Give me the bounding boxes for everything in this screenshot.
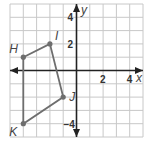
vertex-i-point [47, 41, 52, 46]
y-axis-bottom-arrow [73, 129, 80, 137]
axes [10, 4, 143, 137]
vertex-j-label: J [68, 90, 76, 104]
vertex-h-label: H [9, 42, 18, 56]
vertex-k-point [21, 121, 26, 126]
x-axis-label: x [135, 71, 143, 85]
y-tick-label: 2 [68, 39, 74, 50]
coordinate-plane: 2442−4 x y HIJK [0, 0, 148, 142]
vertex-h-point [21, 55, 26, 60]
x-tick-label: 2 [100, 74, 106, 85]
y-tick-label: −4 [64, 119, 76, 130]
x-tick-label: 4 [127, 74, 133, 85]
y-tick-label: 4 [68, 12, 74, 23]
vertex-j-point [61, 95, 66, 100]
x-axis-left-arrow [10, 67, 18, 74]
y-axis-top-arrow [73, 4, 80, 12]
vertex-k-label: K [9, 125, 18, 139]
y-axis-label: y [80, 3, 88, 17]
